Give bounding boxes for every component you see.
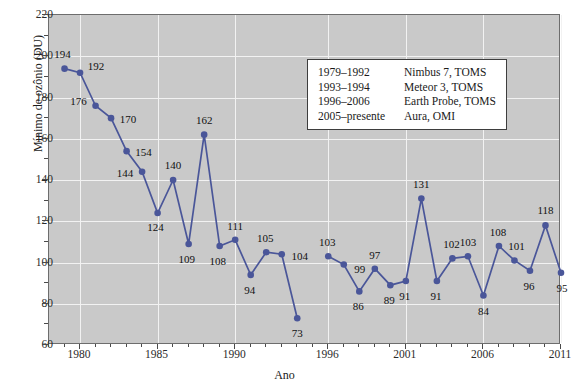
data-point-value-label: 192 <box>88 60 105 72</box>
legend-period: 1979–1992 <box>318 65 404 80</box>
data-point-marker <box>139 168 146 175</box>
data-point-marker <box>247 272 254 279</box>
x-axis-tick-mark <box>48 344 49 347</box>
y-axis-tick-mark <box>42 138 48 139</box>
data-point-value-label: 103 <box>460 236 477 248</box>
x-axis-tick-mark <box>141 344 142 347</box>
data-point-marker <box>185 241 192 248</box>
x-axis-tick-mark <box>95 344 96 347</box>
data-point-value-label: 104 <box>291 250 308 262</box>
y-axis-minor-tick-mark <box>44 117 48 118</box>
legend-instrument: Aura, OMI <box>404 109 455 124</box>
x-axis-tick-mark <box>172 344 173 347</box>
data-point-value-label: 140 <box>165 159 182 171</box>
data-point-marker <box>542 222 549 229</box>
y-axis-tick-mark <box>42 55 48 56</box>
x-axis-tick-mark <box>203 344 204 347</box>
x-axis-tick-mark <box>389 344 390 347</box>
x-axis-tick-mark <box>436 344 437 347</box>
data-point-value-label: 95 <box>557 282 568 294</box>
data-point-marker <box>232 237 239 244</box>
data-point-value-label: 91 <box>430 290 441 302</box>
legend-instrument: Meteor 3, TOMS <box>404 80 483 95</box>
data-point-value-label: 97 <box>369 249 380 261</box>
data-point-marker <box>527 267 534 274</box>
data-point-marker <box>372 265 379 272</box>
legend-instrument: Earth Probe, TOMS <box>404 94 496 109</box>
data-point-marker <box>558 270 565 277</box>
x-axis-tick-mark <box>219 344 220 347</box>
data-point-value-label: 176 <box>70 95 87 107</box>
x-axis-tick-mark <box>250 344 251 347</box>
legend-row: 1979–1992Nimbus 7, TOMS <box>318 65 496 80</box>
y-axis-minor-tick-mark <box>44 323 48 324</box>
data-point-value-label: 94 <box>244 284 255 296</box>
x-axis-tick-mark <box>343 344 344 347</box>
x-axis-tick-mark <box>405 344 406 349</box>
legend-row: 1996–2006Earth Probe, TOMS <box>318 94 496 109</box>
x-axis-tick-mark <box>498 344 499 347</box>
data-point-marker <box>108 115 115 122</box>
x-axis-tick-label: 1980 <box>68 348 91 360</box>
x-axis-tick-mark <box>234 344 235 349</box>
data-point-marker <box>278 251 285 258</box>
legend-period: 1993–1994 <box>318 80 404 95</box>
y-axis-minor-tick-mark <box>44 158 48 159</box>
data-point-marker <box>92 102 99 109</box>
y-axis-tick-mark <box>42 179 48 180</box>
x-axis-tick-label: 1990 <box>223 348 246 360</box>
legend-period: 1996–2006 <box>318 94 404 109</box>
data-point-value-label: 89 <box>384 294 395 306</box>
y-axis-minor-tick-mark <box>44 282 48 283</box>
data-point-value-label: 101 <box>508 240 525 252</box>
data-point-marker <box>356 288 363 295</box>
y-axis-minor-tick-mark <box>44 241 48 242</box>
data-point-marker <box>480 292 487 299</box>
data-point-value-label: 109 <box>178 253 195 265</box>
legend-row: 2005–presenteAura, OMI <box>318 109 496 124</box>
x-axis-tick-mark <box>544 344 545 347</box>
data-point-marker <box>216 243 223 250</box>
data-point-value-label: 111 <box>227 220 243 232</box>
data-point-marker <box>154 210 161 217</box>
data-point-value-label: 84 <box>478 305 489 317</box>
data-point-marker <box>434 278 441 285</box>
x-axis-tick-mark <box>296 344 297 347</box>
data-point-marker <box>123 148 130 155</box>
legend-period: 2005–presente <box>318 109 404 124</box>
data-point-marker <box>511 257 518 264</box>
x-axis-tick-label: 2001 <box>393 348 416 360</box>
y-axis-tick-mark <box>42 97 48 98</box>
y-axis-minor-tick-mark <box>44 76 48 77</box>
x-axis-tick-mark <box>482 344 483 349</box>
x-axis-tick-mark <box>64 344 65 347</box>
x-axis-tick-label: 1996 <box>316 348 339 360</box>
data-point-value-label: 162 <box>196 114 213 126</box>
data-point-marker <box>263 249 270 256</box>
y-axis-tick-mark <box>42 220 48 221</box>
data-point-value-label: 131 <box>413 178 430 190</box>
x-axis-title: Ano <box>0 368 569 383</box>
x-axis-tick-mark <box>281 344 282 347</box>
instrument-legend: 1979–1992Nimbus 7, TOMS1993–1994Meteor 3… <box>307 59 507 130</box>
y-axis-minor-tick-mark <box>44 200 48 201</box>
data-point-marker <box>449 255 456 262</box>
x-axis-tick-mark <box>420 344 421 347</box>
x-axis-tick-mark <box>560 344 561 349</box>
data-point-value-label: 96 <box>523 280 534 292</box>
data-point-value-label: 102 <box>443 238 460 250</box>
x-axis-tick-mark <box>513 344 514 347</box>
x-axis-tick-mark <box>529 344 530 347</box>
y-axis-minor-tick-mark <box>44 35 48 36</box>
series-segment <box>65 69 298 319</box>
x-axis-tick-mark <box>79 344 80 349</box>
data-point-value-label: 103 <box>319 236 336 248</box>
x-axis-tick-mark <box>126 344 127 347</box>
legend-instrument: Nimbus 7, TOMS <box>404 65 486 80</box>
y-axis-tick-mark <box>42 262 48 263</box>
data-point-value-label: 105 <box>257 232 274 244</box>
data-point-marker <box>61 65 68 72</box>
plot-area: 1941921761701541441241401091621081119410… <box>48 14 560 344</box>
data-point-value-label: 118 <box>537 204 553 216</box>
x-axis-tick-mark <box>374 344 375 347</box>
